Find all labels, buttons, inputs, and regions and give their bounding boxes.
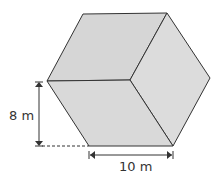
height-arrow-bottom-icon	[35, 141, 43, 146]
height-arrow-top-icon	[35, 82, 43, 87]
width-label: 10 m	[119, 159, 152, 174]
hexagon-diagram	[0, 0, 218, 179]
width-arrow-left-icon	[90, 151, 95, 159]
width-arrow-right-icon	[167, 151, 172, 159]
height-label: 8 m	[9, 108, 34, 123]
